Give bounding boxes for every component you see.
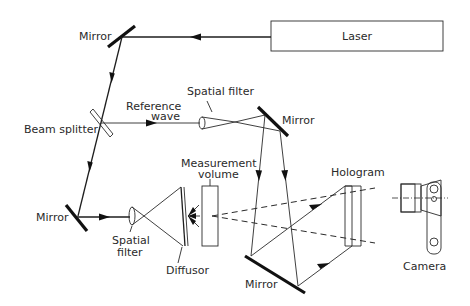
filter-ray bbox=[132, 207, 144, 216]
diffusor: Diffusor bbox=[166, 187, 210, 277]
object-beam-arrow bbox=[99, 214, 110, 221]
spatial-filter-object-label-2: filter bbox=[117, 246, 143, 259]
mirror-right-label: Mirror bbox=[282, 114, 315, 127]
ray-arrow bbox=[281, 170, 288, 181]
laser-beam bbox=[122, 34, 271, 41]
spatial-filter-object-leader bbox=[130, 226, 132, 232]
diffusor-leader bbox=[178, 247, 182, 263]
spatial-filter-object-lens bbox=[129, 207, 135, 225]
beam-arrow bbox=[190, 34, 201, 41]
beam-arrow bbox=[87, 161, 93, 172]
camera: Camera bbox=[392, 180, 448, 273]
hologram-label: Hologram bbox=[331, 166, 385, 179]
object-beam bbox=[77, 214, 130, 221]
ray-arrow bbox=[309, 204, 322, 210]
spatial-filter-ref-label: Spatial filter bbox=[187, 85, 254, 98]
cone-ray bbox=[144, 187, 181, 216]
mirror-bottom-label: Mirror bbox=[245, 278, 278, 291]
diffusor-label: Diffusor bbox=[166, 264, 210, 277]
reference-ray-left bbox=[251, 115, 265, 256]
filter-ray bbox=[202, 117, 235, 122]
reflected-ray-upper bbox=[251, 186, 345, 256]
measurement-volume-box bbox=[202, 186, 218, 246]
hologram: Hologram bbox=[331, 166, 385, 246]
beam-splitter-label: Beam splitter bbox=[24, 123, 98, 136]
filter-ray bbox=[132, 216, 144, 225]
hologram-plate bbox=[345, 186, 361, 246]
camera-knob-top bbox=[430, 185, 438, 193]
ray-arrow bbox=[317, 263, 330, 269]
mirror-top-left-label: Mirror bbox=[79, 30, 112, 43]
camera-knob-small bbox=[432, 197, 437, 202]
reference-beams-down bbox=[251, 115, 298, 286]
camera-label: Camera bbox=[403, 260, 446, 273]
beam-arrow bbox=[109, 72, 115, 83]
reference-wave: Reference wave bbox=[101, 100, 200, 127]
filter-ray bbox=[202, 122, 235, 129]
filter-ray bbox=[235, 115, 265, 122]
optical-setup-diagram: Laser Mirror Beam splitter Reference wav… bbox=[0, 0, 470, 306]
spatial-filter-reference: Spatial filter bbox=[187, 85, 280, 131]
ray-arrow bbox=[256, 170, 263, 181]
viewing-line-lower bbox=[212, 216, 375, 243]
beam-splitter: Beam splitter bbox=[24, 109, 113, 137]
mirror-lower-left-label: Mirror bbox=[36, 211, 69, 224]
reference-wave-label-2: wave bbox=[151, 110, 180, 123]
viewing-line-upper bbox=[212, 188, 375, 216]
laser: Laser bbox=[271, 21, 443, 51]
measurement-volume-label-2: volume bbox=[198, 168, 239, 181]
spatial-filter-leader bbox=[207, 101, 212, 112]
laser-label: Laser bbox=[342, 30, 372, 43]
viewing-lines bbox=[212, 188, 375, 243]
camera-knob-bottom bbox=[430, 238, 438, 246]
measurement-volume: Measurement volume bbox=[181, 157, 257, 246]
spatial-filter-object: Spatial filter bbox=[112, 187, 183, 259]
mirror-lower-left bbox=[66, 205, 87, 231]
reference-ray-right bbox=[280, 131, 298, 286]
